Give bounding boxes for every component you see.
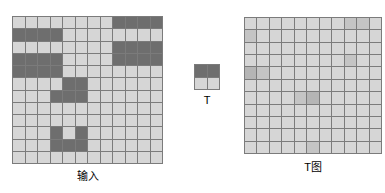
grid-cell xyxy=(151,29,164,41)
grid-cell xyxy=(257,142,269,154)
grid-cell xyxy=(270,80,282,92)
grid-cell xyxy=(320,43,332,55)
grid-cell xyxy=(88,115,101,127)
grid-cell xyxy=(370,142,382,154)
grid-cell xyxy=(26,78,39,90)
grid-cell xyxy=(51,91,64,103)
grid-cell xyxy=(332,67,344,79)
grid-cell xyxy=(101,42,114,54)
grid-cell xyxy=(151,17,164,29)
grid-cell xyxy=(76,29,89,41)
grid-cell xyxy=(63,91,76,103)
grid-cell xyxy=(76,152,89,164)
grid-cell xyxy=(320,30,332,42)
grid-cell xyxy=(357,117,369,129)
grid-cell xyxy=(151,42,164,54)
grid-cell xyxy=(38,103,51,115)
grid-cell xyxy=(320,92,332,104)
grid-cell xyxy=(38,42,51,54)
grid-cell xyxy=(76,91,89,103)
grid-cell xyxy=(357,142,369,154)
grid-cell xyxy=(270,43,282,55)
grid-cell xyxy=(345,117,357,129)
grid-cell xyxy=(357,105,369,117)
grid-cell xyxy=(26,152,39,164)
grid-cell xyxy=(151,115,164,127)
grid-cell xyxy=(76,78,89,90)
grid-cell xyxy=(195,78,208,91)
grid-cell xyxy=(282,129,294,141)
grid-cell xyxy=(195,65,208,78)
grid-cell xyxy=(332,142,344,154)
grid-cell xyxy=(151,140,164,152)
grid-cell xyxy=(76,103,89,115)
grid-cell xyxy=(38,115,51,127)
grid-cell xyxy=(370,117,382,129)
grid-cell xyxy=(63,115,76,127)
grid-cell xyxy=(13,29,26,41)
grid-cell xyxy=(332,92,344,104)
grid-cell xyxy=(282,80,294,92)
grid-cell xyxy=(245,67,257,79)
grid-cell xyxy=(332,80,344,92)
grid-cell xyxy=(101,140,114,152)
result-grid-caption: T图 xyxy=(244,161,382,174)
grid-cell xyxy=(51,17,64,29)
grid-cell xyxy=(101,91,114,103)
grid-cell xyxy=(63,29,76,41)
grid-cell xyxy=(295,117,307,129)
grid-cell xyxy=(208,65,221,78)
grid-cell xyxy=(13,140,26,152)
grid-cell xyxy=(307,55,319,67)
grid-cell xyxy=(332,30,344,42)
grid-cell xyxy=(26,103,39,115)
grid-cell xyxy=(38,17,51,29)
grid-cell xyxy=(345,92,357,104)
grid-cell xyxy=(113,91,126,103)
grid-cell xyxy=(51,54,64,66)
grid-cell xyxy=(320,67,332,79)
grid-cell xyxy=(357,129,369,141)
grid-cell xyxy=(320,55,332,67)
grid-cell xyxy=(63,66,76,78)
grid-cell xyxy=(138,78,151,90)
grid-cell xyxy=(138,127,151,139)
grid-cell xyxy=(26,127,39,139)
grid-cell xyxy=(76,127,89,139)
grid-cell xyxy=(295,43,307,55)
grid-cell xyxy=(345,80,357,92)
grid-cell xyxy=(88,66,101,78)
grid-cell xyxy=(245,92,257,104)
grid-cell xyxy=(151,103,164,115)
grid-cell xyxy=(282,92,294,104)
grid-cell xyxy=(113,115,126,127)
grid-cell xyxy=(282,18,294,30)
grid-cell xyxy=(332,43,344,55)
grid-cell xyxy=(370,67,382,79)
grid-cell xyxy=(38,140,51,152)
grid-cell xyxy=(245,80,257,92)
grid-cell xyxy=(113,17,126,29)
grid-cell xyxy=(257,55,269,67)
grid-cell xyxy=(38,152,51,164)
grid-cell xyxy=(270,105,282,117)
grid-cell xyxy=(295,55,307,67)
grid-cell xyxy=(51,140,64,152)
grid-cell xyxy=(257,92,269,104)
grid-cell xyxy=(88,78,101,90)
grid-cell xyxy=(138,103,151,115)
grid-cell xyxy=(270,30,282,42)
grid-cell xyxy=(126,54,139,66)
grid-cell xyxy=(245,117,257,129)
grid-cell xyxy=(370,92,382,104)
grid-cell xyxy=(13,42,26,54)
grid-cell xyxy=(332,129,344,141)
grid-cell xyxy=(295,105,307,117)
grid-cell xyxy=(257,43,269,55)
grid-cell xyxy=(345,55,357,67)
grid-cell xyxy=(126,66,139,78)
grid-cell xyxy=(13,91,26,103)
grid-cell xyxy=(357,92,369,104)
grid-cell xyxy=(138,17,151,29)
grid-cell xyxy=(295,18,307,30)
